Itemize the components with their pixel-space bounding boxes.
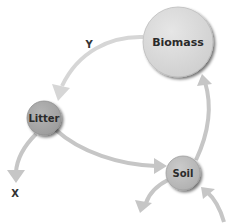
litter-label: Litter (28, 113, 59, 124)
node-litter: Litter (27, 101, 61, 135)
arrow-in-to-soil (201, 187, 224, 222)
arrow-litter-to-x (7, 134, 36, 183)
node-biomass: Biomass (143, 7, 213, 77)
flow-label-y: Y (84, 39, 93, 50)
flow-label-x: X (11, 188, 19, 199)
soil-label: Soil (173, 168, 194, 179)
arrow-soil-to-biomass (196, 74, 212, 160)
arrow-biomass-to-litter (52, 37, 143, 101)
biomass-label: Biomass (152, 36, 204, 49)
node-soil: Soil (166, 156, 200, 190)
cycle-diagram: Biomass Litter Soil Y X (0, 0, 229, 224)
arrow-litter-to-soil (56, 130, 167, 174)
arrow-soil-out (135, 180, 168, 213)
